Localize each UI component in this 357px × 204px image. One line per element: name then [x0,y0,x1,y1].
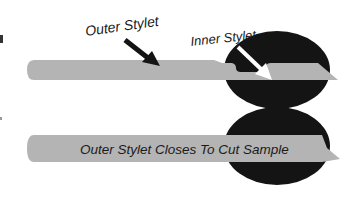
outer-stylet-top [27,60,222,80]
inner-stylet [214,63,338,80]
outer-stylet-label: Outer Stylet [84,13,161,39]
biopsy-needle-diagram: Outer Stylet Inner Stylet Outer Stylet C… [0,0,357,204]
edge-mark-bottom [0,117,2,120]
caption-label: Outer Stylet Closes To Cut Sample [80,142,289,157]
edge-mark-top [0,35,3,43]
